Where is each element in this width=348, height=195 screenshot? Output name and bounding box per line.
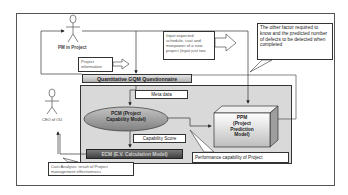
- pm-actor-label: PM in Project: [58, 45, 87, 50]
- ceo-actor-icon: [45, 89, 59, 114]
- meta-data-label: Meta data: [135, 90, 188, 99]
- ecm-bar: ECM (E.V. Calculation Model): [86, 149, 183, 159]
- ceo-actor-label: CEO of OU: [42, 117, 62, 122]
- input-expected-note: Input expected schedule, cost and manpow…: [163, 31, 215, 60]
- capability-score-label: Capability Score: [133, 134, 186, 143]
- cost-analysis-note: Cost Analysis: result of Project managem…: [48, 162, 134, 176]
- gqm-questionnaire-bar: Quantitative GQM Questionnaire: [82, 74, 192, 83]
- ppm-node: PPM (Project Prediction Model): [214, 115, 270, 138]
- ppm-line4: Model): [214, 132, 270, 138]
- pm-actor-icon: [66, 15, 80, 42]
- other-factor-note: The other factor required to know and th…: [257, 23, 333, 60]
- pcm-node: PCM (Project Capability Model): [84, 111, 168, 122]
- project-information-note: Project information: [78, 57, 113, 72]
- performance-capability-label: Performance capability of Project: [192, 152, 289, 163]
- pcm-line2: Capability Model): [84, 117, 168, 123]
- diagram-canvas: PM in Project CEO of OU Project informat…: [0, 0, 348, 195]
